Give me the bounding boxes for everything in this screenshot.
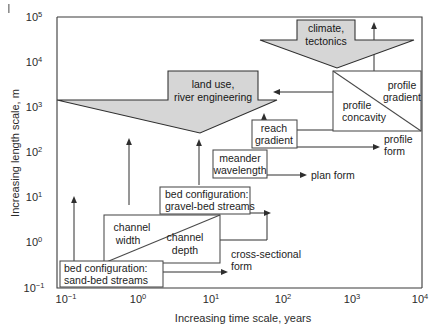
arrowhead-profileform [373, 144, 380, 150]
y-tick-1e4: 104 [26, 55, 42, 68]
diagram-canvas: 105 104 103 102 101 100 10−1 Increasing … [0, 0, 434, 335]
arrowhead-planform [300, 172, 307, 178]
arrowhead-crossform [221, 269, 228, 275]
band-land-use-line2: river engineering [174, 91, 252, 103]
y-axis-ticks: 105 104 103 102 101 100 10−1 [24, 10, 45, 294]
x-axis-title: Increasing time scale, years [175, 312, 312, 324]
box-bed-configuration-gravel[interactable]: bed configuration: gravel-bed streams [160, 187, 255, 214]
y-tick-1e2: 102 [26, 145, 42, 158]
x-tick-1e-1: 10−1 [56, 292, 77, 305]
x-tick-1e2: 102 [275, 292, 291, 305]
box-channel-width-depth[interactable]: channel width channel depth [104, 215, 220, 263]
arrowhead-gravelbed-up [196, 139, 202, 146]
arrowhead-meander-up [261, 113, 267, 120]
y-tick-1e3: 103 [26, 100, 42, 113]
label-meander-line1: meander [219, 152, 261, 164]
x-tick-1e4: 104 [412, 292, 428, 305]
label-profile-concavity-line2: concavity [342, 111, 387, 123]
arrowhead-profile-left [273, 89, 280, 95]
y-tick-1e5: 105 [26, 10, 42, 23]
label-sand-line1: bed configuration: [64, 262, 147, 274]
label-reach-gradient-line2: gradient [255, 134, 293, 146]
label-channel-depth-line2: depth [172, 244, 198, 256]
outcome-plan-form: plan form [311, 169, 355, 181]
outcome-cross-sectional-form-line1: cross-sectional [231, 248, 301, 260]
label-channel-width-line2: width [115, 234, 141, 246]
y-tick-1e-1: 10−1 [24, 281, 45, 294]
scale-diagram-figure: 105 104 103 102 101 100 10−1 Increasing … [0, 0, 434, 335]
box-reach-gradient[interactable]: reach gradient [252, 120, 297, 148]
box-bed-configuration-sand[interactable]: bed configuration: sand-bed streams [60, 261, 163, 287]
x-tick-1e3: 103 [344, 292, 360, 305]
y-axis-title: Increasing length scale, m [9, 89, 21, 217]
x-axis-ticks: 10−1 100 101 102 103 104 [56, 292, 429, 305]
arrowhead-profile-up [371, 22, 377, 29]
box-meander-wavelength[interactable]: meander wavelength [212, 150, 267, 178]
scan-artifact [8, 4, 10, 13]
label-profile-gradient-line2: gradient [383, 91, 421, 103]
label-gravel-line1: bed configuration: [165, 188, 248, 200]
label-profile-gradient-line1: profile [388, 79, 417, 91]
box-profile-concavity-gradient[interactable]: profile gradient profile concavity [333, 71, 421, 131]
arrowhead-channelwidth-up [126, 138, 132, 145]
label-channel-depth-line1: channel [167, 231, 204, 243]
outcome-profile-form-line2: form [384, 145, 405, 157]
x-tick-1e1: 101 [203, 292, 219, 305]
band-land-use-line1: land use, [192, 78, 235, 90]
label-sand-line2: sand-bed streams [64, 274, 148, 286]
label-reach-gradient-line1: reach [261, 122, 287, 134]
outcome-cross-sectional-form-line2: form [231, 260, 252, 272]
y-tick-1e0: 100 [26, 235, 42, 248]
outcome-profile-form-line1: profile [384, 133, 413, 145]
band-climate-line1: climate, [308, 22, 344, 34]
label-profile-concavity-line1: profile [343, 99, 372, 111]
x-tick-1e0: 100 [130, 292, 146, 305]
label-gravel-line2: gravel-bed streams [165, 200, 255, 212]
band-climate-line2: tectonics [305, 35, 346, 47]
label-channel-width-line1: channel [114, 221, 151, 233]
arrowhead-sandbed-up [71, 196, 77, 203]
y-tick-1e1: 101 [26, 190, 42, 203]
label-meander-line2: wavelength [212, 164, 266, 176]
